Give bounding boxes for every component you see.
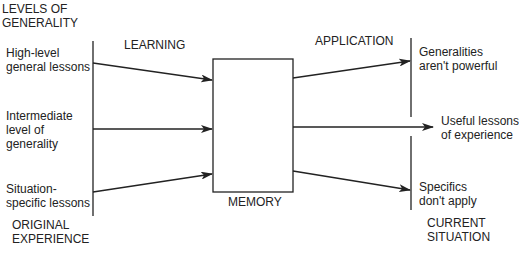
level-high-label: High-level general lessons [6,46,90,74]
level-intermediate-label: Intermediate level of generality [6,109,73,151]
label-line: general lessons [6,60,90,74]
level-specific-label: Situation- specific lessons [6,182,90,210]
label-line: High-level [6,46,90,60]
label-line: specific lessons [6,196,90,210]
application-arrow-specific [293,171,410,190]
label-line: Generalities [419,45,497,59]
label-line: SITUATION [427,230,490,244]
outcome-specifics-label: Specifics don't apply [419,180,477,208]
application-label: APPLICATION [315,34,393,48]
heading-line: GENERALITY [2,16,78,30]
label-line: of experience [441,128,519,142]
label-line: Specifics [419,180,477,194]
outcome-useful-label: Useful lessons of experience [441,114,519,142]
label-line: generality [6,137,73,151]
label-line: Situation- [6,182,90,196]
learning-arrow-high [93,63,212,80]
label-line: aren't powerful [419,59,497,73]
application-arrow-high [293,61,410,78]
label-line: Useful lessons [441,114,519,128]
label-line: ORIGINAL [12,218,89,232]
outcome-generalities-label: Generalities aren't powerful [419,45,497,73]
label-line: level of [6,123,73,137]
original-experience-label: ORIGINAL EXPERIENCE [12,218,89,246]
label-line: don't apply [419,194,477,208]
memory-box [213,59,293,192]
label-line: EXPERIENCE [12,232,89,246]
memory-label: MEMORY [228,195,282,209]
label-line: CURRENT [427,216,490,230]
learning-arrow-specific [93,174,212,192]
current-situation-label: CURRENT SITUATION [427,216,490,244]
label-line: Intermediate [6,109,73,123]
levels-of-generality-heading: LEVELS OF GENERALITY [2,2,78,30]
heading-line: LEVELS OF [2,2,78,16]
learning-label: LEARNING [124,38,185,52]
